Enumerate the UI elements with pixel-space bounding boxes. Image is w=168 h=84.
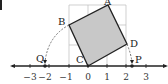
tick-label: 0 <box>85 72 91 82</box>
tick-label: 3 <box>143 72 149 82</box>
arc-b-to-q <box>45 25 69 62</box>
tick-label: 2 <box>123 72 129 82</box>
axis-arrow-right-icon <box>163 64 168 68</box>
label-p: P <box>135 54 142 65</box>
label-c: C <box>76 54 84 65</box>
label-a: A <box>103 0 112 7</box>
corner-mark <box>0 0 2 10</box>
tick-label: −1 <box>59 72 72 82</box>
label-b: B <box>58 16 65 27</box>
tick-label: 1 <box>104 72 110 82</box>
axis-arrow-left-icon <box>10 64 15 68</box>
arrow-p-icon <box>130 60 134 64</box>
label-q: Q <box>36 53 44 64</box>
point-p <box>130 64 134 68</box>
tick-label: −2 <box>38 72 51 82</box>
point-c <box>87 65 89 67</box>
tick-label: −3 <box>23 72 37 82</box>
point-q <box>43 64 47 68</box>
label-d: D <box>130 38 138 49</box>
